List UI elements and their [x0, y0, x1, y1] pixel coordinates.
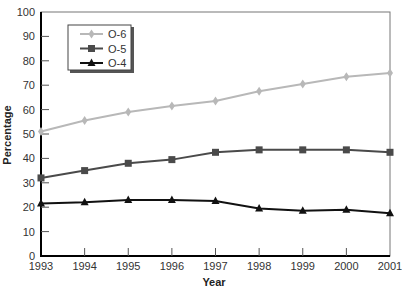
y-tick-label: 60 — [23, 104, 35, 116]
diamond-marker — [300, 79, 306, 88]
y-tick-label: 10 — [23, 226, 35, 238]
series-o-5 — [38, 146, 394, 181]
x-tick-label: 2001 — [378, 260, 402, 272]
square-marker — [81, 167, 88, 174]
x-axis: 199319941995199619971998199920002001 — [29, 248, 402, 272]
line-chart: 0102030405060708090100 19931994199519961… — [0, 0, 402, 290]
diamond-marker — [256, 87, 262, 96]
series-o-6 — [38, 69, 393, 137]
square-marker — [125, 160, 132, 167]
square-marker — [38, 174, 45, 181]
y-tick-label: 30 — [23, 177, 35, 189]
x-tick-label: 1997 — [203, 260, 227, 272]
y-tick-label: 40 — [23, 152, 35, 164]
x-tick-label: 1993 — [29, 260, 53, 272]
y-tick-label: 80 — [23, 55, 35, 67]
legend-label: O-5 — [108, 43, 126, 55]
square-marker — [212, 149, 219, 156]
diamond-marker — [82, 116, 88, 125]
diamond-marker — [343, 72, 349, 81]
diamond-marker — [38, 127, 44, 136]
square-marker — [256, 146, 263, 153]
legend: O-6O-5O-4 — [68, 25, 134, 73]
square-marker — [387, 149, 394, 156]
y-tick-label: 50 — [23, 128, 35, 140]
square-marker — [343, 146, 350, 153]
y-axis-title: Percentage — [1, 105, 13, 164]
x-tick-label: 2000 — [334, 260, 358, 272]
legend-label: O-6 — [108, 28, 126, 40]
legend-label: O-4 — [108, 57, 126, 69]
x-axis-title: Year — [202, 276, 226, 288]
diamond-marker — [169, 101, 175, 110]
y-axis: 0102030405060708090100 — [17, 6, 49, 262]
square-marker — [88, 45, 95, 52]
y-tick-label: 90 — [23, 30, 35, 42]
x-tick-label: 1999 — [291, 260, 315, 272]
x-tick-label: 1998 — [247, 260, 271, 272]
series-o-4 — [37, 195, 394, 216]
x-tick-label: 1996 — [160, 260, 184, 272]
y-tick-label: 100 — [17, 6, 35, 18]
y-tick-label: 70 — [23, 79, 35, 91]
x-tick-label: 1995 — [116, 260, 140, 272]
diamond-marker — [213, 97, 219, 106]
x-tick-label: 1994 — [72, 260, 96, 272]
y-tick-label: 20 — [23, 201, 35, 213]
series-layer — [37, 69, 394, 217]
diamond-marker — [125, 108, 131, 117]
diamond-marker — [387, 69, 393, 78]
square-marker — [168, 156, 175, 163]
square-marker — [299, 146, 306, 153]
